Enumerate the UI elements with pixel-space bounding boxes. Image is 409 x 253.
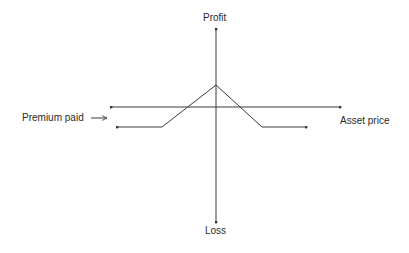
premium-paid-label: Premium paid: [22, 113, 84, 123]
asset-price-label: Asset price: [340, 116, 389, 126]
loss-label: Loss: [205, 226, 226, 236]
payoff-line: [117, 85, 306, 127]
payoff-diagram: [0, 0, 409, 253]
profit-label: Profit: [203, 13, 226, 23]
